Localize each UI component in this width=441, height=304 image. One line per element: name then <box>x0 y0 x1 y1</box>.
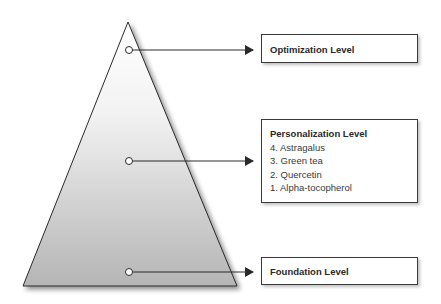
optimization-level-box: Optimization Level <box>261 34 418 63</box>
marker-circle-foundation <box>126 269 133 276</box>
pyramid-triangle <box>23 22 237 286</box>
personalization-level-box: Personalization Level 4. Astragalus 3. G… <box>261 119 418 203</box>
marker-circle-optimization <box>126 47 133 54</box>
list-item: 4. Astragalus <box>270 141 409 155</box>
optimization-level-title: Optimization Level <box>270 43 409 57</box>
list-item: 3. Green tea <box>270 154 409 168</box>
personalization-level-title: Personalization Level <box>270 127 409 141</box>
list-item: 1. Alpha-tocopherol <box>270 181 409 195</box>
foundation-level-title: Foundation Level <box>270 265 409 279</box>
foundation-level-box: Foundation Level <box>261 257 418 285</box>
marker-circle-personalization <box>126 158 133 165</box>
list-item: 2. Quercetin <box>270 168 409 182</box>
